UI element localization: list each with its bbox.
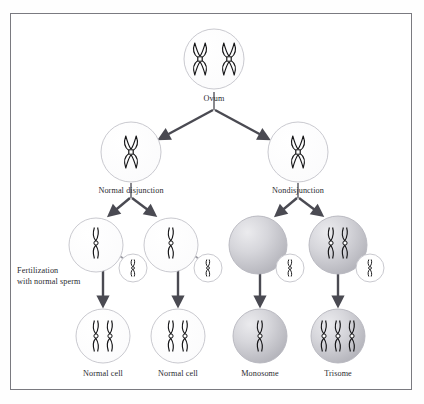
label-normal-cell-2: Normal cell [158,369,198,379]
label-ovum: Ovum [204,94,225,104]
arrow-ovum-to-nondisjunction [215,110,265,137]
arrow-normaldis-to-gamete1 [112,198,130,213]
label-normal-cell-1: Normal cell [83,369,123,379]
ovum-cell-membrane [184,29,244,89]
arrow-normaldis-to-gamete2 [132,198,152,213]
cell-nondisjunction [268,122,328,182]
label-trisome: Trisome [324,369,352,379]
label-monosome: Monosome [241,369,279,379]
normal-cell-2-membrane [151,309,205,363]
cell-normal-disjunction [101,122,161,182]
cell-gamete-2 [144,218,198,272]
cell-gamete-1 [69,218,123,272]
sperm-cell-4 [356,254,384,282]
label-normal-disjunction: Normal disjunction [98,186,163,196]
sperm-cell-3 [276,254,304,282]
cell-ovum [184,29,244,89]
cell-normal-2 [151,309,205,363]
cell-trisome [311,309,365,363]
meiosis-nondisjunction-diagram [0,0,424,404]
arrow-nondis-to-gamete4 [299,198,319,213]
arrow-ovum-to-normal [163,110,213,137]
cell-monosome [233,309,287,363]
arrow-nondis-to-gamete3 [279,198,297,213]
sperm-cell-1 [119,254,147,282]
figure-root: Ovum Normal disjunction Nondisjunction F… [0,0,424,404]
cell-normal-1 [76,309,130,363]
normal-cell-1-membrane [76,309,130,363]
sperm-cell-2 [194,254,222,282]
label-fertilization-line1: Fertilization [17,266,58,276]
label-nondisjunction: Nondisjunction [272,186,324,196]
label-fertilization-line2: with normal sperm [17,277,81,287]
